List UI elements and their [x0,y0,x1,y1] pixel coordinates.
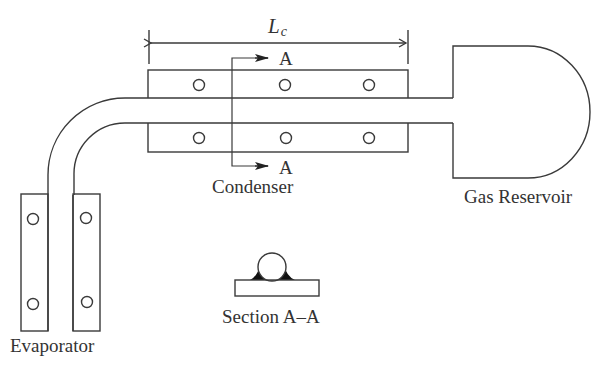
gas-reservoir [453,46,590,178]
evaporator-label: Evaporator [10,335,95,356]
section-marker-top: A [279,48,293,69]
condenser-label: Condenser [212,176,294,197]
heat-pipe-diagram: Lc A A Condenser Gas Reservoir [0,0,612,379]
section-label: Section A–A [222,306,320,327]
length-label: Lc [267,14,288,39]
section-a-a-detail [235,253,319,296]
gas-reservoir-label: Gas Reservoir [464,186,573,207]
section-marker-bottom: A [279,157,293,178]
evaporator [21,194,100,331]
